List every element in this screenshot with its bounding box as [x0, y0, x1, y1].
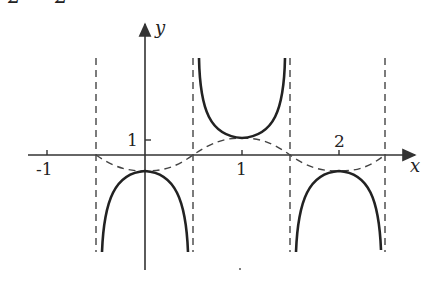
y-axis-label: y	[154, 17, 166, 38]
top-fragment-text: 2	[7, 0, 21, 8]
svg-text:2: 2	[54, 0, 68, 8]
x-tick-label: 2	[334, 131, 345, 151]
x-tick-label: -1	[36, 159, 53, 179]
x-axis-label: x	[410, 155, 420, 176]
graph-figure: 2 2 -1 1 2 1 x y	[0, 0, 448, 281]
plot-svg: 2 2 -1 1 2 1 x y	[0, 0, 448, 281]
x-tick-label: 1	[236, 159, 247, 179]
y-tick-label: 1	[127, 130, 138, 150]
